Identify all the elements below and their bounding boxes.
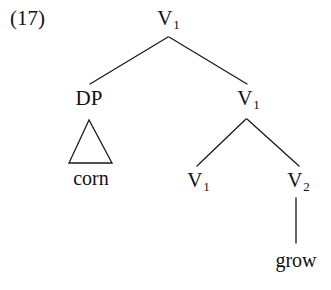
tree-terminal-grow: grow xyxy=(275,250,316,270)
node-label-v1-leaf: V xyxy=(187,168,202,192)
tree-terminal-corn: corn xyxy=(73,168,109,188)
node-label-root: V xyxy=(157,6,172,30)
node-label-dp: DP xyxy=(76,86,103,110)
tree-node-vbar-right: V1 xyxy=(237,88,259,109)
node-label-v2-leaf: V xyxy=(287,168,302,192)
node-subscript-v2-leaf: 2 xyxy=(303,179,310,194)
dp-triangle-shape xyxy=(69,120,112,163)
tree-branch-lines xyxy=(0,0,331,290)
syntax-tree-figure: (17) V1DPV1V1V2 corngrow xyxy=(0,0,331,290)
node-subscript-root: 1 xyxy=(173,17,180,32)
node-subscript-vbar-right: 1 xyxy=(253,97,260,112)
branch-vbar-to-v2 xyxy=(247,119,299,166)
branch-root-to-vbar xyxy=(169,37,247,84)
tree-node-v1-leaf: V1 xyxy=(187,170,209,191)
tree-node-dp: DP xyxy=(76,88,103,109)
tree-node-v2-leaf: V2 xyxy=(287,170,309,191)
tree-node-root: V1 xyxy=(157,8,179,29)
node-subscript-v1-leaf: 1 xyxy=(203,179,210,194)
node-label-vbar-right: V xyxy=(237,86,252,110)
branch-vbar-to-v1 xyxy=(197,119,246,166)
branch-root-to-dp xyxy=(90,37,168,84)
